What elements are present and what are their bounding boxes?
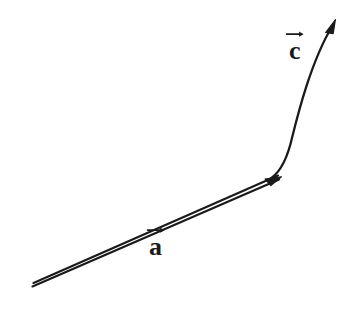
- vector-c-glyph: c: [289, 29, 301, 64]
- vector-overarrow-icon-a: [146, 225, 165, 234]
- vector-a-label: a: [149, 225, 162, 260]
- vector-c-letter: c: [289, 36, 301, 65]
- vector-c-label: c: [289, 29, 301, 64]
- vector-c-shape: [268, 20, 336, 181]
- arrowhead-icon-vector-c: [326, 20, 336, 34]
- vector-a-glyph: a: [149, 225, 162, 260]
- vector-diagram-canvas: [0, 0, 358, 315]
- vector-a-letter: a: [149, 232, 162, 261]
- vector-overarrow-icon-c: [285, 29, 304, 38]
- vector-diagram-figure: a c: [0, 0, 358, 315]
